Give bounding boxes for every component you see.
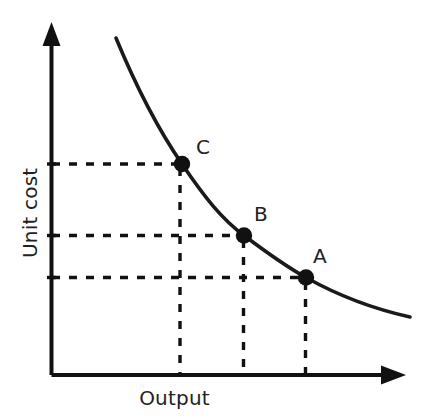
unit-cost-curve bbox=[116, 38, 410, 317]
x-axis-arrowhead bbox=[381, 366, 406, 385]
data-point-c-marker[interactable] bbox=[174, 156, 190, 172]
data-point-label-c: C bbox=[196, 137, 210, 157]
data-point-b-marker[interactable] bbox=[236, 227, 252, 243]
data-point-a-marker[interactable] bbox=[298, 269, 314, 285]
x-axis-title: Output bbox=[0, 388, 387, 408]
chart-canvas bbox=[0, 0, 425, 419]
data-point-markers bbox=[174, 156, 314, 286]
y-axis-title: Unit cost bbox=[20, 168, 40, 258]
data-point-label-a: A bbox=[313, 246, 327, 266]
chart-container: Unit cost Output C B A bbox=[0, 0, 425, 419]
data-point-label-b: B bbox=[254, 204, 268, 224]
axes-group bbox=[43, 22, 407, 385]
guide-lines-group bbox=[52, 164, 306, 374]
y-axis-arrowhead bbox=[43, 22, 61, 46]
